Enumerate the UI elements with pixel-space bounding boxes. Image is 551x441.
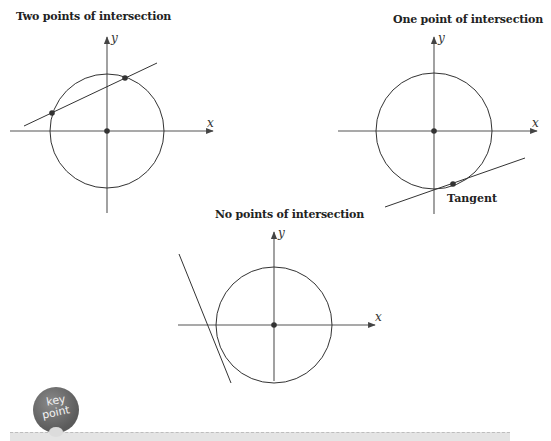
intersection-point bbox=[122, 75, 128, 81]
y-axis-label: y bbox=[438, 31, 445, 45]
tangent-point bbox=[450, 181, 456, 187]
x-axis-label: x bbox=[532, 116, 539, 130]
badge-knob bbox=[49, 427, 63, 437]
figure-two-points bbox=[10, 37, 213, 213]
origin-point bbox=[271, 322, 277, 328]
origin-point bbox=[431, 128, 437, 134]
y-axis-label: y bbox=[111, 31, 118, 45]
figure-no-points bbox=[178, 232, 375, 383]
x-axis-label: x bbox=[375, 310, 382, 324]
origin-point bbox=[104, 128, 110, 134]
y-axis-label: y bbox=[278, 226, 285, 240]
key-point-badge-icon: key point bbox=[33, 387, 79, 433]
tangent-label: Tangent bbox=[447, 192, 497, 205]
figure-one-point bbox=[338, 37, 537, 214]
key-point-bar bbox=[10, 432, 510, 441]
x-axis-label: x bbox=[207, 116, 214, 130]
non-intersecting-line bbox=[179, 254, 231, 383]
secant-line bbox=[24, 63, 157, 126]
intersection-point bbox=[49, 110, 55, 116]
